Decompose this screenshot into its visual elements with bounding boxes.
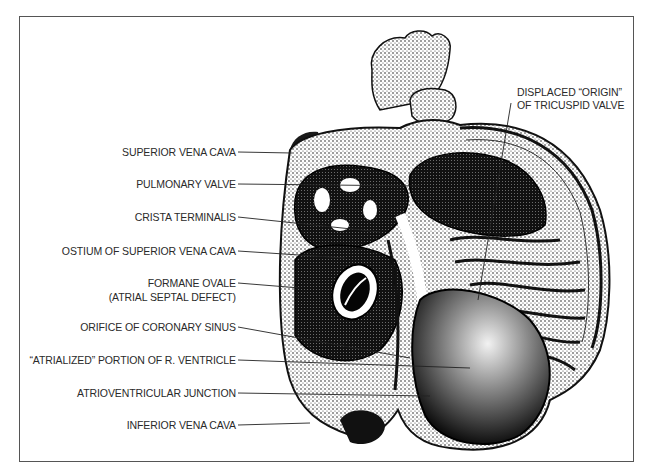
label-pulmonary-valve: PULMONARY VALVE [40, 178, 236, 190]
heart-illustration [0, 0, 646, 474]
label-tricuspid-valve: OF TRICUSPID VALVE [517, 99, 624, 111]
label-atrialized-portion-rv: “ATRIALIZED” PORTION OF R. VENTRICLE [20, 354, 236, 366]
label-superior-vena-cava: SUPERIOR VENA CAVA [40, 146, 236, 158]
label-crista-terminalis: CRISTA TERMINALIS [40, 211, 236, 223]
label-foramen-ovale: FORMANE OVALE [40, 277, 236, 289]
label-displaced-origin: DISPLACED “ORIGIN” [517, 86, 622, 98]
label-atrioventricular-junction: ATRIOVENTRICULAR JUNCTION [20, 387, 236, 399]
label-inferior-vena-cava: INFERIOR VENA CAVA [20, 419, 236, 431]
label-orifice-coronary-sinus: ORIFICE OF CORONARY SINUS [20, 321, 236, 333]
label-atrial-septal-defect: (ATRIAL SEPTAL DEFECT) [40, 291, 236, 303]
label-ostium-superior-vena-cava: OSTIUM OF SUPERIOR VENA CAVA [0, 245, 236, 257]
